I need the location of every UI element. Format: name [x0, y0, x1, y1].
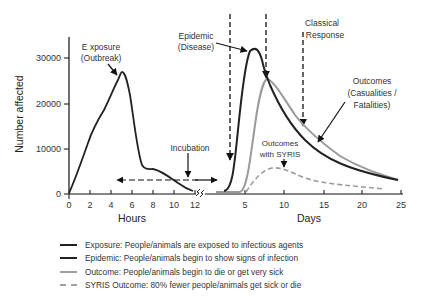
axis-break-icon [196, 189, 204, 197]
annotation-syris: Outcomes [262, 139, 298, 148]
annotation-outcomes: (Casualities / [347, 88, 397, 98]
annotation-epidemic: Epidemic [179, 31, 215, 41]
legend-item-outcome: Outcome: People/animals begin to die or … [60, 265, 303, 279]
xtick-hour-label: 2 [87, 200, 92, 210]
ytick-label: 30000 [36, 53, 61, 63]
x-axis-hours-title: Hours [118, 212, 146, 224]
exposure-pointer [108, 64, 117, 75]
xtick-hour-label: 0 [66, 200, 71, 210]
annotation-classical-response: Classical [305, 18, 339, 28]
xtick-hour-label: 12 [190, 200, 200, 210]
legend-swatch-dashed-gray [60, 284, 77, 286]
outcomes-pointer [318, 102, 345, 142]
series-exposure [69, 72, 193, 193]
legend: Exposure: People/animals are exposed to … [60, 238, 303, 292]
annotation-incubation: Incubation [170, 143, 209, 153]
annotation-classical-response: Response [306, 30, 345, 40]
xtick-day-label: 15 [319, 200, 329, 210]
x-axis-days-title: Days [297, 212, 321, 224]
legend-item-exposure: Exposure: People/animals are exposed to … [60, 238, 303, 252]
legend-item-epidemic: Epidemic: People/animals begin to show s… [60, 252, 303, 266]
legend-label: Outcome: People/animals begin to die or … [85, 267, 283, 277]
legend-swatch-solid-black [60, 257, 77, 259]
xtick-day-label: 25 [396, 200, 406, 210]
legend-label: SYRIS Outcome: 80% fewer people/animals … [85, 280, 301, 290]
annotation-syris: with SYRIS [259, 150, 300, 159]
ytick-label: 20000 [36, 99, 61, 109]
xtick-hour-label: 10 [169, 200, 179, 210]
annotation-exposure: (Outbreak) [81, 53, 122, 63]
ytick-label: 0 [56, 189, 61, 199]
legend-swatch-solid-gray [60, 271, 77, 273]
series-epidemic [224, 49, 398, 191]
xtick-day-label: 10 [279, 200, 289, 210]
annotation-epidemic: (Disease) [178, 42, 215, 52]
legend-label: Exposure: People/animals are exposed to … [85, 240, 303, 250]
xtick-hour-label: 8 [150, 200, 155, 210]
xtick-day-label: 20 [357, 200, 367, 210]
axes: 0 10000 20000 30000 0 2 4 6 8 10 12 5 [13, 37, 406, 224]
annotation-outcomes: Fatalities) [354, 100, 391, 110]
legend-swatch-solid-black [60, 244, 77, 246]
xtick-day-label: 5 [242, 200, 247, 210]
ytick-label: 10000 [36, 144, 61, 154]
legend-item-syris-outcome: SYRIS Outcome: 80% fewer people/animals … [60, 279, 303, 293]
xtick-hour-label: 6 [129, 200, 134, 210]
epidemic-pointer [216, 43, 247, 51]
annotation-outcomes: Outcomes [353, 76, 392, 86]
annotation-exposure: E xposure [82, 42, 121, 52]
legend-label: Epidemic: People/animals begin to show s… [85, 253, 298, 263]
y-axis-title: Number affected [13, 75, 25, 153]
xtick-hour-label: 4 [108, 200, 113, 210]
